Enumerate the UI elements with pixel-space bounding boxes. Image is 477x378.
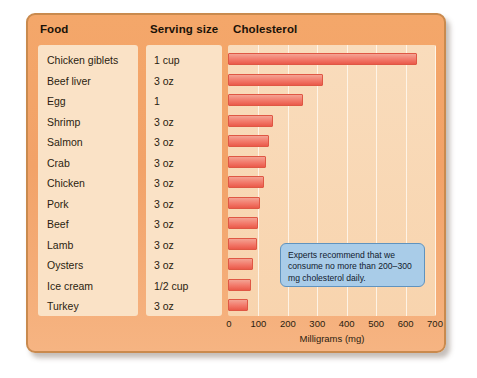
serving-size-label: 1 bbox=[154, 95, 160, 107]
column-header-serving-size: Serving size bbox=[150, 23, 218, 35]
serving-size-label: 3 oz bbox=[154, 136, 174, 148]
x-axis-tick-label: 300 bbox=[309, 318, 325, 329]
food-label: Chicken bbox=[47, 177, 85, 189]
x-axis-tick-label: 100 bbox=[250, 318, 266, 329]
chart-panel: Food Serving size Cholesterol Chicken gi… bbox=[26, 13, 446, 353]
bar bbox=[228, 53, 417, 65]
x-axis-tick-label: 400 bbox=[339, 318, 355, 329]
serving-size-label: 3 oz bbox=[154, 116, 174, 128]
bar bbox=[228, 135, 269, 147]
food-label: Salmon bbox=[47, 136, 83, 148]
food-label: Ice cream bbox=[47, 280, 93, 292]
food-label: Chicken giblets bbox=[47, 54, 118, 66]
x-axis-tick-label: 500 bbox=[368, 318, 384, 329]
serving-size-label: 1/2 cup bbox=[154, 280, 188, 292]
x-axis-title: Milligrams (mg) bbox=[228, 333, 436, 344]
bar bbox=[228, 156, 266, 168]
food-label: Pork bbox=[47, 198, 69, 210]
serving-size-label: 3 oz bbox=[154, 157, 174, 169]
bar bbox=[228, 115, 273, 127]
serving-size-label: 3 oz bbox=[154, 300, 174, 312]
x-axis: 0100200300400500600700 bbox=[228, 318, 436, 332]
callout-note: Experts recommend that we consume no mor… bbox=[280, 243, 425, 287]
bar bbox=[228, 238, 257, 250]
bar bbox=[228, 258, 253, 270]
x-axis-tick-label: 600 bbox=[398, 318, 414, 329]
bar bbox=[228, 299, 248, 311]
bar bbox=[228, 217, 258, 229]
food-label: Crab bbox=[47, 157, 70, 169]
bar bbox=[228, 197, 260, 209]
food-label: Turkey bbox=[47, 300, 79, 312]
serving-size-column: 1 cup3 oz13 oz3 oz3 oz3 oz3 oz3 oz3 oz3 … bbox=[146, 45, 222, 316]
serving-size-label: 3 oz bbox=[154, 259, 174, 271]
food-label: Beef bbox=[47, 218, 69, 230]
bar bbox=[228, 74, 323, 86]
food-label: Egg bbox=[47, 95, 66, 107]
serving-size-label: 3 oz bbox=[154, 177, 174, 189]
gridline bbox=[435, 45, 436, 316]
x-axis-tick-label: 700 bbox=[427, 318, 443, 329]
food-label: Shrimp bbox=[47, 116, 80, 128]
column-header-cholesterol: Cholesterol bbox=[233, 23, 297, 35]
serving-size-label: 3 oz bbox=[154, 218, 174, 230]
food-label: Lamb bbox=[47, 239, 73, 251]
food-label: Oysters bbox=[47, 259, 83, 271]
bar bbox=[228, 94, 303, 106]
column-header-food: Food bbox=[40, 23, 69, 35]
serving-size-label: 3 oz bbox=[154, 75, 174, 87]
x-axis-tick-label: 0 bbox=[226, 318, 231, 329]
x-axis-tick-label: 200 bbox=[280, 318, 296, 329]
serving-size-label: 1 cup bbox=[154, 54, 180, 66]
food-label: Beef liver bbox=[47, 75, 91, 87]
food-column: Chicken gibletsBeef liverEggShrimpSalmon… bbox=[38, 45, 138, 316]
table-header: Food Serving size Cholesterol bbox=[28, 15, 444, 45]
bar bbox=[228, 279, 251, 291]
serving-size-label: 3 oz bbox=[154, 239, 174, 251]
bar bbox=[228, 176, 264, 188]
serving-size-label: 3 oz bbox=[154, 198, 174, 210]
